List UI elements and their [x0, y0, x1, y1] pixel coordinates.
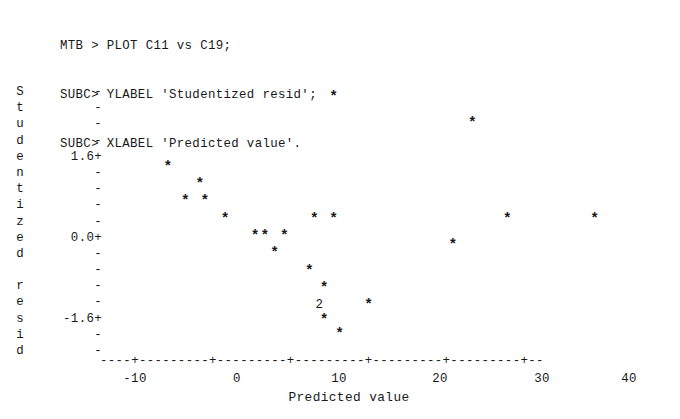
x-axis-tick-label: 30 [534, 371, 550, 387]
data-point: * [328, 91, 339, 104]
y-axis-label-char: z [10, 214, 30, 230]
x-axis-label: Predicted value [0, 389, 680, 406]
y-axis-tick-mark: - [40, 116, 102, 132]
y-axis-tick-mark: - [40, 100, 102, 116]
y-axis-tick-label: 0.0+ [40, 230, 102, 246]
x-axis-tick-label: -10 [123, 371, 146, 387]
y-axis-label-char: d [10, 343, 30, 359]
y-axis-label-char: n [10, 165, 30, 181]
x-axis-rule: ----+---------+---------+---------+-----… [100, 354, 544, 368]
y-axis-tick-mark: - [40, 197, 102, 213]
data-point: * [309, 212, 320, 225]
minitab-plot-screenshot: MTB > PLOT C11 vs C19; SUBC> YLABEL 'Stu… [0, 0, 680, 419]
data-point: * [259, 229, 270, 242]
y-axis-label-char: e [10, 149, 30, 165]
y-axis-label-char: e [10, 294, 30, 310]
y-axis-tick-mark: - [40, 84, 102, 100]
y-axis-tick-mark: - [40, 278, 102, 294]
data-point: * [447, 238, 458, 251]
x-axis-label-text: Predicted value [288, 390, 409, 405]
data-point-overplot: 2 [314, 299, 325, 312]
y-axis-tick-mark: - [40, 294, 102, 310]
y-axis-label-char: S [10, 84, 30, 100]
data-point: * [304, 264, 315, 277]
x-axis-tick-label: 20 [432, 371, 448, 387]
y-axis-tick-mark: - [40, 181, 102, 197]
y-axis-label: Studentized resid [10, 84, 30, 359]
data-point: * [269, 247, 280, 260]
x-axis-tick-label: 10 [331, 371, 347, 387]
data-point-layer: ******************2*** [102, 84, 642, 358]
data-point: * [279, 229, 290, 242]
data-point: * [319, 313, 330, 326]
y-axis-tick-mark: - [40, 262, 102, 278]
y-axis-tick-mark: - [40, 133, 102, 149]
scatter-plot: Studentized resid ----1.6+----0.0+-----1… [0, 0, 680, 419]
y-axis-tick-label: 1.6+ [40, 149, 102, 165]
data-point: * [502, 212, 513, 225]
data-point: * [319, 281, 330, 294]
data-point: * [194, 177, 205, 190]
y-axis-label-char: i [10, 327, 30, 343]
y-axis-label-char: u [10, 116, 30, 132]
y-axis-label-char: e [10, 230, 30, 246]
y-axis-label-char: s [10, 311, 30, 327]
y-axis-label-char: t [10, 181, 30, 197]
y-axis-label-char: r [10, 278, 30, 294]
y-axis-tick-mark: - [40, 246, 102, 262]
data-point: * [199, 195, 210, 208]
y-axis-tick-mark: - [40, 343, 102, 359]
y-axis-label-char: i [10, 197, 30, 213]
data-point: * [220, 212, 231, 225]
data-point: * [589, 212, 600, 225]
y-axis-label-char: d [10, 246, 30, 262]
y-axis-tick-label: -1.6+ [40, 311, 102, 327]
y-axis-tick-mark: - [40, 165, 102, 181]
y-axis-tick-mark: - [40, 214, 102, 230]
x-axis-tick-label: 0 [233, 371, 241, 387]
data-point: * [334, 327, 345, 340]
y-axis-label-char: d [10, 133, 30, 149]
x-axis-tick-label: 40 [621, 371, 637, 387]
x-axis-tick-labels: -10010203040 [0, 371, 680, 387]
data-point: * [467, 117, 478, 130]
data-point: * [363, 299, 374, 312]
data-point: * [180, 195, 191, 208]
data-point: * [162, 160, 173, 173]
y-axis-label-char: t [10, 100, 30, 116]
y-axis-tick-mark: - [40, 327, 102, 343]
y-axis-ticks: ----1.6+----0.0+-----1.6+-- [40, 84, 102, 359]
data-point: * [328, 212, 339, 225]
